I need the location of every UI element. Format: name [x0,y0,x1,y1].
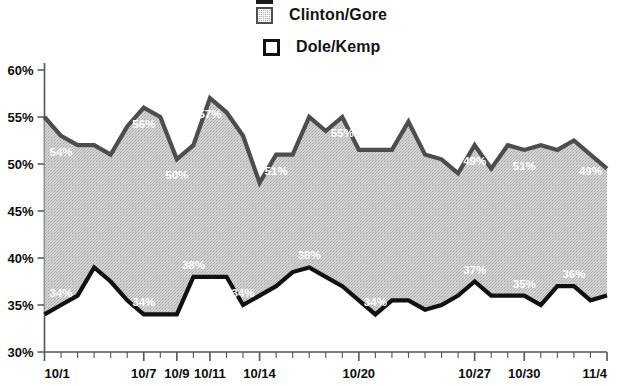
y-axis-tick-labels: 60%55%50%45%40%35%30% [7,63,33,360]
chart-page: Perot/Choate Clinton/Gore Dole/Kemp [0,0,622,386]
legend-swatch-perot-icon [256,0,273,4]
data-point-label: 34% [132,296,155,308]
legend-label-dole: Dole/Kemp [296,38,380,56]
y-tick-label: 50% [7,157,33,172]
x-axis-ticks [45,352,608,361]
x-axis-tick-labels: 10/110/710/910/1110/1410/2010/2710/3011/… [45,366,608,381]
y-axis-ticks [38,70,45,352]
x-tick-label: 11/4 [582,366,607,381]
legend-item-clinton[interactable]: Clinton/Gore [256,6,387,24]
data-point-label: 37% [463,264,486,276]
x-tick-label: 10/11 [194,366,226,381]
legend-label-clinton: Clinton/Gore [289,6,387,24]
data-point-label: 34% [50,287,73,299]
legend-item-perot[interactable]: Perot/Choate [256,0,390,4]
data-point-label: 36% [562,268,585,280]
data-point-label: 34% [364,296,387,308]
x-tick-label: 10/14 [243,366,276,381]
legend-swatch-dole-icon [263,39,280,56]
data-point-label: 38% [182,259,205,271]
data-point-label: 49% [463,155,486,167]
legend-label-perot: Perot/Choate [289,0,390,4]
x-tick-label: 10/20 [343,366,376,381]
data-point-label: 51% [513,160,536,172]
data-point-label: 55% [331,127,354,139]
chart-legend: Perot/Choate Clinton/Gore Dole/Kemp [0,0,622,62]
data-point-label: 35% [513,278,536,290]
data-point-label: 57% [198,108,221,120]
x-tick-label: 10/9 [164,366,189,381]
data-point-label: 51% [265,165,288,177]
x-tick-label: 10/1 [45,366,70,381]
legend-swatch-clinton-icon [256,7,273,24]
y-tick-label: 60% [7,63,33,78]
y-tick-label: 35% [7,298,33,313]
data-point-label: 49% [579,165,602,177]
data-point-label: 54% [50,146,73,158]
x-tick-label: 10/27 [458,366,491,381]
data-point-label: 56% [132,118,155,130]
x-tick-label: 10/7 [131,366,156,381]
poll-area-chart: 54%56%50%57%51%55%49%51%49% 34%34%38%34%… [0,56,622,386]
x-tick-label: 10/30 [508,366,541,381]
data-point-label: 38% [298,249,321,261]
y-tick-label: 45% [7,204,33,219]
y-tick-label: 40% [7,251,33,266]
data-point-label: 34% [232,287,255,299]
chart-plot-area: 54%56%50%57%51%55%49%51%49% 34%34%38%34%… [0,56,622,386]
y-tick-label: 30% [7,345,33,360]
data-point-label: 50% [165,169,188,181]
y-tick-label: 55% [7,110,33,125]
legend-item-dole[interactable]: Dole/Kemp [263,38,380,56]
